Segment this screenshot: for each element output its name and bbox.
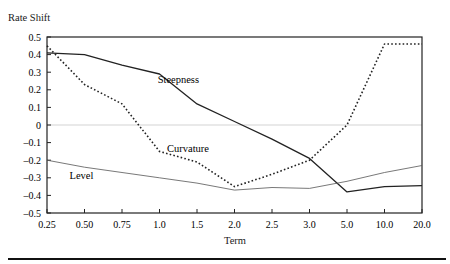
x-tick-label: 2.5: [266, 219, 279, 230]
y-tick-label: 0.3: [29, 67, 42, 78]
x-tick-label: 0.25: [38, 219, 56, 230]
x-tick-label: 20.0: [413, 219, 431, 230]
x-tick-label: 2.0: [228, 219, 241, 230]
y-tick-label: 0.1: [29, 102, 42, 113]
y-tick-label: 0.2: [29, 84, 42, 95]
y-tick-label: 0.4: [29, 49, 42, 60]
series-label-level: Level: [70, 170, 94, 181]
series-curvature-line: [47, 44, 422, 187]
x-tick-label: 1.0: [153, 219, 166, 230]
y-tick-label: –0.1: [23, 137, 42, 148]
x-tick-label: 1.5: [191, 219, 204, 230]
x-tick-label: 0.50: [76, 219, 94, 230]
y-tick-label: 0: [36, 120, 41, 131]
x-axis-title: Term: [0, 235, 450, 246]
series-label-steepness: Steepness: [158, 74, 199, 85]
x-tick-label: 10.0: [376, 219, 394, 230]
series-steepness-line: [47, 53, 422, 192]
y-tick-label: –0.3: [23, 172, 42, 183]
y-tick-label: –0.2: [23, 155, 42, 166]
bottom-rule: [8, 258, 446, 260]
series-level-line: [47, 160, 422, 190]
y-tick-label: –0.4: [23, 190, 42, 201]
x-tick-label: 0.75: [113, 219, 131, 230]
y-tick-label: 0.5: [29, 32, 42, 43]
line-chart: 0.50.40.30.20.10–0.1–0.2–0.3–0.4–0.50.25…: [0, 0, 450, 264]
x-tick-label: 3.0: [303, 219, 316, 230]
series-label-curvature: Curvature: [167, 143, 209, 154]
y-tick-label: –0.5: [23, 208, 42, 219]
x-tick-label: 5.0: [341, 219, 354, 230]
